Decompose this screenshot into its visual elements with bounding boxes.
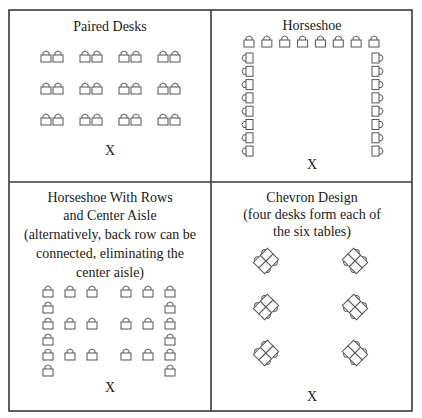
row-desk-icon [121, 286, 131, 297]
panel-title-horseshoe: Horseshoe [282, 17, 341, 35]
panel-title-line-3: (alternatively, back row can be [24, 226, 196, 244]
teacher-marker-paired-desks: X [105, 143, 115, 159]
horseshoe-top-desk-icon [244, 36, 254, 47]
horseshoe-top-desk-icon [262, 36, 272, 47]
horseshoe-right-desk-icon [372, 120, 383, 130]
side-desk-icon [43, 365, 53, 376]
horseshoe-left-desk-icon [242, 80, 253, 90]
row-desk-icon [43, 318, 53, 329]
horseshoe-top-desk-icon [280, 36, 290, 47]
horseshoe-top-desk-icon [333, 36, 343, 47]
chevron-table-icon [252, 247, 280, 275]
chevron-table-icon [341, 339, 369, 367]
horseshoe-left-desk-icon [242, 66, 253, 76]
horseshoe-top-desk-icon [315, 36, 325, 47]
teacher-marker-horseshoe: X [307, 157, 317, 173]
horseshoe-left-desk-icon [242, 120, 253, 130]
panel-subtitle-chevron-1: (four desks form each of [243, 206, 381, 224]
row-desk-icon [65, 349, 75, 360]
paired-desk-icon [119, 51, 129, 62]
row-desk-icon [143, 318, 153, 329]
horseshoe-right-desk-icon [372, 66, 383, 76]
side-desk-icon [43, 334, 53, 345]
row-desk-icon [143, 349, 153, 360]
row-desk-icon [165, 286, 175, 297]
horseshoe-right-desk-icon [372, 133, 383, 143]
horseshoe-left-desk-icon [242, 93, 253, 103]
paired-desk-icon [92, 114, 102, 125]
paired-desk-icon [80, 51, 90, 62]
chevron-table-icon [252, 339, 280, 367]
row-desk-icon [65, 318, 75, 329]
row-desk-icon [165, 349, 175, 360]
paired-desk-icon [158, 83, 168, 94]
side-desk-icon [165, 302, 175, 313]
paired-desk-icon [119, 83, 129, 94]
row-desk-icon [165, 318, 175, 329]
horseshoe-right-desk-icon [372, 93, 383, 103]
paired-desk-icon [170, 83, 180, 94]
teacher-marker-chevron: X [307, 389, 317, 405]
side-desk-icon [43, 302, 53, 313]
panel-subtitle-chevron-2: the six tables) [273, 223, 351, 241]
chevron-table-icon [341, 293, 369, 321]
row-desk-icon [121, 349, 131, 360]
row-desk-icon [43, 286, 53, 297]
row-desk-icon [43, 349, 53, 360]
side-desk-icon [165, 365, 175, 376]
paired-desk-icon [158, 114, 168, 125]
row-desk-icon [87, 318, 97, 329]
horseshoe-top-desk-icon [369, 36, 379, 47]
horseshoe-top-desk-icon [351, 36, 361, 47]
panel-title-line-2: and Center Aisle [63, 207, 156, 225]
panel-title-paired-desks: Paired Desks [73, 18, 147, 36]
paired-desk-icon [80, 83, 90, 94]
paired-desk-icon [158, 51, 168, 62]
paired-desk-icon [41, 51, 51, 62]
paired-desk-icon [170, 51, 180, 62]
horseshoe-right-desk-icon [372, 106, 383, 116]
paired-desk-icon [119, 114, 129, 125]
horseshoe-left-desk-icon [242, 53, 253, 63]
paired-desk-icon [41, 114, 51, 125]
row-desk-icon [87, 349, 97, 360]
panel-title-line-4: connected, eliminating the [36, 245, 184, 263]
horseshoe-right-desk-icon [372, 53, 383, 63]
paired-desk-icon [53, 114, 63, 125]
classroom-arrangements-figure: Paired Desks X Horseshoe X Horseshoe Wit… [0, 0, 422, 418]
paired-desk-icon [41, 83, 51, 94]
chevron-table-icon [341, 247, 369, 275]
paired-desk-icon [170, 114, 180, 125]
horseshoe-right-desk-icon [372, 146, 383, 156]
row-desk-icon [65, 286, 75, 297]
panel-title-line-1: Horseshoe With Rows [47, 189, 172, 207]
horseshoe-left-desk-icon [242, 146, 253, 156]
row-desk-icon [143, 286, 153, 297]
row-desk-icon [121, 318, 131, 329]
horseshoe-top-desk-icon [298, 36, 308, 47]
side-desk-icon [165, 334, 175, 345]
horseshoe-left-desk-icon [242, 106, 253, 116]
paired-desk-icon [131, 83, 141, 94]
chevron-table-icon [252, 293, 280, 321]
paired-desk-icon [92, 51, 102, 62]
horseshoe-left-desk-icon [242, 133, 253, 143]
paired-desk-icon [53, 83, 63, 94]
panel-title-chevron: Chevron Design [266, 189, 357, 207]
paired-desk-icon [53, 51, 63, 62]
teacher-marker-horseshoe-rows: X [105, 380, 115, 396]
row-desk-icon [87, 286, 97, 297]
horseshoe-right-desk-icon [372, 80, 383, 90]
paired-desk-icon [131, 51, 141, 62]
paired-desk-icon [80, 114, 90, 125]
paired-desk-icon [92, 83, 102, 94]
panel-title-line-5: center aisle) [76, 264, 144, 282]
paired-desk-icon [131, 114, 141, 125]
